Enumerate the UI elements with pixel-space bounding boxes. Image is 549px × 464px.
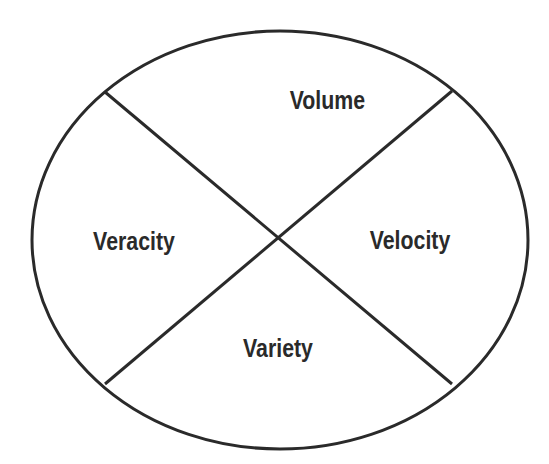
four-vs-diagram: Volume Velocity Variety Veracity (0, 0, 549, 464)
quadrant-label-velocity: Velocity (370, 225, 451, 255)
diagram-canvas: Volume Velocity Variety Veracity (0, 0, 549, 464)
quadrant-label-variety: Variety (243, 333, 314, 363)
quadrant-label-veracity: Veracity (93, 226, 175, 256)
quadrant-label-volume: Volume (290, 85, 365, 115)
